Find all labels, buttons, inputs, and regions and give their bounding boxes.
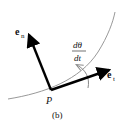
point-label: P bbox=[45, 95, 52, 106]
normal-vector-label: e n bbox=[15, 26, 25, 40]
normal-vector-arrow bbox=[29, 35, 51, 90]
svg-text:n: n bbox=[21, 32, 25, 40]
tangent-vector-arrow bbox=[51, 70, 109, 90]
figure-caption: (b) bbox=[52, 110, 63, 120]
diagram-canvas: e n e t dθ dt P (b) bbox=[0, 0, 126, 124]
svg-text:e: e bbox=[107, 69, 112, 80]
svg-text:t: t bbox=[113, 75, 115, 83]
angular-rate-label: dθ dt bbox=[72, 40, 86, 63]
svg-text:dt: dt bbox=[74, 53, 82, 63]
svg-text:e: e bbox=[15, 26, 20, 37]
tangent-vector-label: e t bbox=[107, 69, 115, 83]
svg-text:dθ: dθ bbox=[73, 40, 83, 50]
